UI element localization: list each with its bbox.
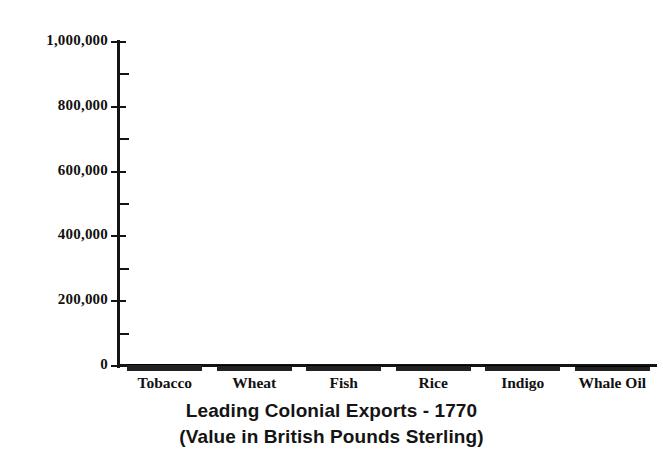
y-axis-tick-label: 400,000 [8,226,108,243]
bar [485,365,560,371]
bar-slot [396,40,471,367]
y-axis-tick-label: 800,000 [8,97,108,114]
chart-title: Leading Colonial Exports - 1770 [0,398,663,424]
y-axis-tick-label: 200,000 [8,291,108,308]
category-label-wheat: Wheat [210,374,300,392]
plot-area: 0200,000400,000600,000800,0001,000,000 T… [0,0,663,380]
bar-slot [217,40,292,367]
bar [396,365,471,371]
y-axis-tick-label: 600,000 [8,162,108,179]
bar-slot [575,40,650,367]
category-label-indigo: Indigo [478,374,568,392]
bar [575,366,650,371]
category-label-fish: Fish [299,374,389,392]
category-label-whale-oil: Whale Oil [568,374,658,392]
bar-slot [485,40,560,367]
x-axis-category-labels: TobaccoWheatFishRiceIndigoWhale Oil [120,374,657,400]
bar-slot [127,40,202,367]
chart-title-block: Leading Colonial Exports - 1770 (Value i… [0,398,663,450]
bar [217,365,292,371]
y-axis-tick-label: 1,000,000 [8,32,108,49]
chart-figure: 0200,000400,000600,000800,0001,000,000 T… [0,0,663,467]
bar-series [120,40,657,367]
bar [306,365,381,371]
chart-subtitle: (Value in British Pounds Sterling) [0,424,663,450]
category-label-tobacco: Tobacco [120,374,210,392]
bar [127,364,202,371]
category-label-rice: Rice [389,374,479,392]
bar-slot [306,40,381,367]
y-axis-tick-label: 0 [8,356,108,373]
